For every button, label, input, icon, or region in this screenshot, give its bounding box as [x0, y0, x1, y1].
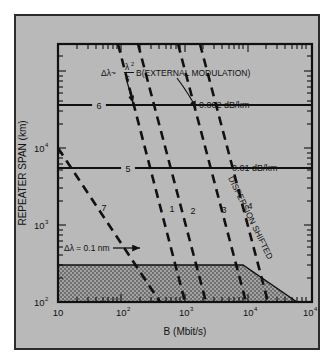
svg-text:2: 2	[45, 296, 49, 302]
solid-curve-group	[58, 105, 312, 168]
x-tick-100: 10 2	[116, 306, 131, 318]
x-tick-10000: 10 4	[243, 306, 258, 318]
svg-text:10: 10	[116, 307, 127, 318]
svg-text:Δλ = 0.1 nm: Δλ = 0.1 nm	[64, 243, 110, 253]
curve-label-4: 4	[247, 201, 252, 211]
svg-text:2: 2	[127, 306, 131, 312]
svg-text:4: 4	[45, 142, 49, 148]
y-tick-labels: 10 2 10 3 10 4	[34, 142, 49, 308]
curve-label-1: 1	[169, 204, 174, 214]
curve-label-2: 2	[190, 206, 195, 216]
curve-label-5: 5	[125, 164, 130, 174]
curve-line-3	[178, 44, 246, 302]
chart-canvas: Δλ~ λ 2 c B(EXTERNAL MODULATION) 0.002 d…	[0, 0, 335, 364]
svg-text:10: 10	[179, 307, 190, 318]
svg-text:3: 3	[45, 219, 49, 225]
formula-delta: Δλ~	[101, 68, 116, 78]
svg-text:10: 10	[243, 307, 254, 318]
formula-numerator-exponent: 2	[131, 61, 134, 67]
x-tick-10: 10	[53, 307, 64, 318]
loss-label-0002: 0.002 dB/km	[199, 100, 250, 110]
curve-line-4	[200, 44, 268, 302]
x-tick-1000: 10 3	[179, 306, 194, 318]
x-axis-ticks	[58, 44, 312, 302]
dashed-curve-group	[58, 44, 268, 302]
axes-frame	[58, 44, 312, 302]
x-axis-title: B (Mbit/s)	[164, 326, 207, 337]
excluded-region	[58, 265, 297, 302]
curve-label-6: 6	[96, 101, 101, 111]
svg-text:10: 10	[34, 220, 45, 231]
formula-denominator: c	[126, 74, 130, 81]
svg-text:10: 10	[34, 143, 45, 154]
y-tick-100: 10 2	[34, 296, 49, 308]
leader-left	[126, 78, 133, 103]
x-tick-10000b: 10 4	[303, 306, 318, 318]
figure-container: Δλ~ λ 2 c B(EXTERNAL MODULATION) 0.002 d…	[0, 0, 335, 364]
y-tick-1000: 10 3	[34, 219, 49, 231]
svg-text:10: 10	[303, 307, 314, 318]
svg-text:4: 4	[314, 306, 318, 312]
dispersion-shifted-label: DISPERSION SHIFTED	[226, 174, 275, 260]
curve-label-3: 3	[221, 205, 226, 215]
svg-text:10: 10	[34, 297, 45, 308]
svg-text:4: 4	[254, 306, 258, 312]
formula-numerator: λ	[125, 62, 130, 72]
svg-text:3: 3	[190, 306, 194, 312]
x-tick-labels: 10 10 2 10 3 10 4 10 4	[53, 306, 318, 318]
curve-line-2	[138, 44, 206, 302]
delta-lambda-label: Δλ = 0.1 nm	[64, 243, 110, 253]
loss-label-001: 0.01 dB/km	[232, 163, 278, 173]
leader-right	[177, 78, 196, 108]
y-tick-10000: 10 4	[34, 142, 49, 154]
formula-leaders	[126, 78, 196, 108]
y-axis-title: REPEATER SPAN (km)	[17, 120, 28, 225]
curve-label-7: 7	[101, 203, 106, 213]
formula-tail: B(EXTERNAL MODULATION)	[136, 68, 250, 78]
